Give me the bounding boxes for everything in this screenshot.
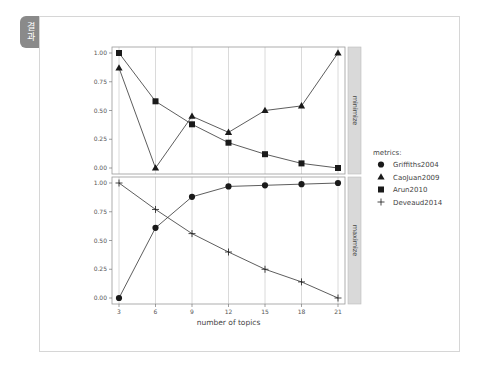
legend-item-deveaud2014: Deveaud2014 (378, 199, 443, 207)
legend-item-caojuan2009: CaoJuan2009 (377, 173, 439, 181)
square-marker (226, 140, 232, 146)
y-tick-label: 0.75 (94, 208, 108, 215)
circle-marker (378, 161, 384, 167)
y-tick-label: 0.25 (94, 265, 108, 272)
y-tick-label: 0.00 (94, 164, 108, 171)
circle-marker (262, 182, 268, 188)
x-tick-label: 21 (334, 308, 342, 315)
legend-title: metrics: (373, 149, 402, 157)
facet-panel-maximize: 0.000.250.500.751.00maximize (94, 177, 361, 304)
x-tick-label: 3 (117, 308, 121, 315)
x-axis: 36912151821number of topics (117, 304, 342, 327)
x-tick-label: 6 (154, 308, 158, 315)
y-tick-label: 0.75 (94, 78, 108, 85)
legend-label: Deveaud2014 (393, 199, 443, 207)
square-marker (116, 50, 122, 56)
legend: metrics:Griffiths2004CaoJuan2009Arun2010… (373, 149, 443, 207)
circle-marker (116, 295, 122, 301)
triangle-marker (377, 173, 384, 179)
square-marker (153, 98, 159, 104)
x-tick-label: 18 (298, 308, 306, 315)
x-tick-label: 12 (225, 308, 233, 315)
y-tick-label: 1.00 (94, 179, 108, 186)
legend-item-griffiths2004: Griffiths2004 (378, 161, 439, 169)
x-tick-label: 9 (190, 308, 194, 315)
facet-strip-label: maximize (351, 225, 359, 257)
y-tick-label: 0.50 (94, 237, 108, 244)
x-axis-title: number of topics (197, 318, 261, 327)
square-marker (335, 165, 341, 171)
facet-panel-minimize: 0.000.250.500.751.00minimize (94, 47, 361, 174)
circle-marker (335, 180, 341, 186)
square-marker (299, 160, 305, 166)
y-tick-label: 0.00 (94, 294, 108, 301)
faceted-line-chart: 0.000.250.500.751.00minimize0.000.250.50… (0, 0, 485, 377)
circle-marker (225, 183, 231, 189)
plus-marker (378, 199, 385, 206)
circle-marker (189, 194, 195, 200)
y-tick-label: 0.25 (94, 135, 108, 142)
legend-label: Arun2010 (393, 186, 427, 194)
legend-item-arun2010: Arun2010 (378, 186, 427, 194)
square-marker (189, 121, 195, 127)
circle-marker (152, 225, 158, 231)
square-marker (262, 151, 268, 157)
square-marker (378, 187, 384, 193)
x-tick-label: 15 (261, 308, 269, 315)
y-tick-label: 0.50 (94, 107, 108, 114)
facet-strip-label: minimize (351, 96, 359, 126)
legend-label: CaoJuan2009 (393, 174, 440, 182)
circle-marker (298, 181, 304, 187)
y-tick-label: 1.00 (94, 49, 108, 56)
legend-label: Griffiths2004 (393, 161, 439, 169)
